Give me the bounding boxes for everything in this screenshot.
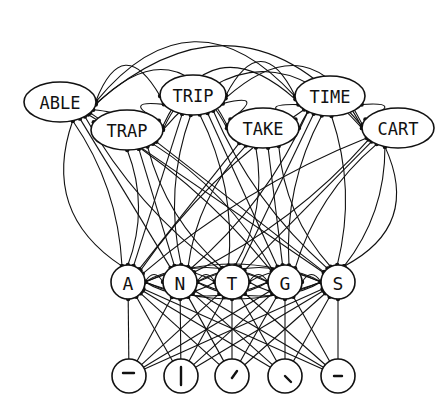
letter-label: A bbox=[123, 273, 134, 294]
interactive-activation-diagram: ABLETRIPTIMETRAPTAKECARTANTGS bbox=[0, 0, 443, 408]
letter-node-n: N bbox=[163, 265, 197, 299]
connection bbox=[244, 142, 371, 271]
feature-circle bbox=[112, 359, 146, 393]
connection bbox=[344, 147, 385, 267]
word-label: TRAP bbox=[107, 121, 148, 141]
feature-node-horizontal-bar-middle bbox=[321, 359, 355, 393]
letter-node-s: S bbox=[321, 265, 355, 299]
letter-label: N bbox=[175, 273, 186, 294]
word-node-time: TIME bbox=[295, 76, 365, 116]
letter-node-g: G bbox=[268, 265, 302, 299]
feature-node-diagonal-up bbox=[215, 359, 249, 393]
word-node-cart: CART bbox=[362, 108, 434, 148]
letter-label: T bbox=[227, 273, 238, 294]
word-node-take: TAKE bbox=[227, 108, 299, 148]
word-label: CART bbox=[378, 119, 419, 139]
word-node-able: ABLE bbox=[24, 82, 96, 122]
connection bbox=[143, 138, 367, 274]
letter-label: G bbox=[280, 273, 291, 294]
connection bbox=[127, 150, 138, 265]
feature-node-horizontal-bar-top bbox=[112, 359, 146, 393]
feature-node-diagonal-down bbox=[268, 359, 302, 393]
word-node-trap: TRAP bbox=[91, 110, 163, 150]
connection bbox=[128, 299, 129, 359]
connection bbox=[139, 143, 239, 269]
connection bbox=[344, 147, 396, 267]
connection bbox=[156, 142, 324, 272]
word-label: TRIP bbox=[173, 86, 214, 106]
letter-node-a: A bbox=[111, 265, 145, 299]
letter-label: S bbox=[333, 273, 344, 294]
feature-node-vertical-bar bbox=[164, 359, 198, 393]
word-label: TIME bbox=[310, 87, 351, 107]
connection bbox=[174, 115, 190, 265]
letter-node-t: T bbox=[215, 265, 249, 299]
word-label: TAKE bbox=[243, 119, 284, 139]
word-label: ABLE bbox=[40, 93, 81, 113]
word-node-trip: TRIP bbox=[160, 75, 226, 115]
connection bbox=[268, 148, 283, 265]
